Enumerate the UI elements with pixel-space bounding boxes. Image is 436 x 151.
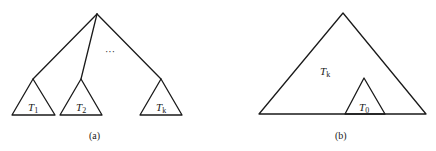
- diagram-a: T1 T2 Tk ··· (a): [12, 14, 182, 142]
- subtree-t1-label: T1: [28, 101, 38, 115]
- tree-diagrams: T1 T2 Tk ··· (a) Tk T0 (b): [0, 0, 436, 151]
- root-edges: [33, 14, 161, 79]
- ellipsis: ···: [105, 46, 115, 57]
- edge-root-to-t2: [81, 14, 97, 79]
- inner-tree-label: T0: [359, 101, 369, 115]
- outer-tree-label: Tk: [320, 65, 330, 79]
- diagram-b: Tk T0 (b): [259, 13, 426, 142]
- caption-b: (b): [335, 130, 347, 142]
- subtree-t2-label: T2: [76, 101, 86, 115]
- outer-tree-tk-triangle: [259, 13, 426, 114]
- caption-a: (a): [89, 130, 100, 142]
- edge-root-to-t1: [33, 14, 97, 79]
- subtree-tk-label: Tk: [156, 101, 166, 115]
